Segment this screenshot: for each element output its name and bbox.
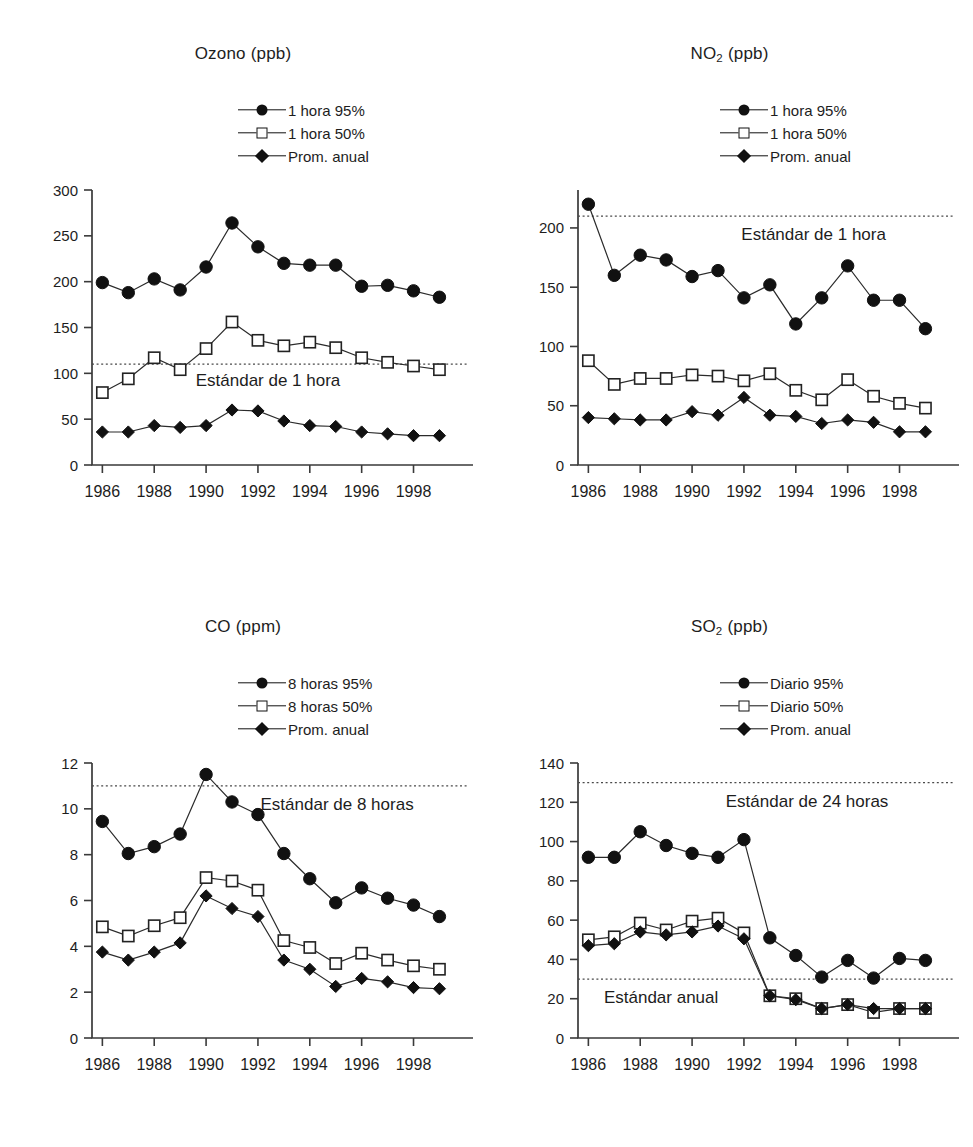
- x-tick-label: 1996: [830, 1056, 866, 1073]
- y-tick-label: 40: [547, 951, 564, 968]
- legend-square-icon: [718, 124, 770, 142]
- data-point-marker: [790, 318, 802, 330]
- legend-circle-icon: [236, 101, 288, 119]
- x-tick-label: 1988: [136, 1056, 172, 1073]
- y-tick-label: 10: [61, 800, 78, 817]
- legend-item: 1 hora 50%: [718, 123, 851, 143]
- data-point-marker: [609, 379, 620, 390]
- legend-label: 1 hora 95%: [288, 102, 365, 119]
- data-point-marker: [712, 264, 724, 276]
- data-point-marker: [790, 385, 801, 396]
- data-point-marker: [356, 426, 368, 438]
- data-point-marker: [920, 403, 931, 414]
- x-tick-label: 1998: [396, 1056, 432, 1073]
- x-tick-label: 1990: [674, 1056, 710, 1073]
- data-point-marker: [408, 360, 419, 371]
- data-point-marker: [304, 873, 316, 885]
- data-point-marker: [712, 409, 724, 421]
- data-point-marker: [816, 417, 828, 429]
- chart-legend-no2: 1 hora 95% 1 hora 50% Prom. anual: [718, 100, 851, 166]
- data-point-marker: [764, 932, 776, 944]
- data-point-marker: [686, 406, 698, 418]
- data-point-marker: [894, 398, 905, 409]
- data-point-marker: [200, 343, 211, 354]
- legend-diamond-icon: [236, 720, 288, 738]
- data-point-marker: [330, 420, 342, 432]
- y-tick-label: 200: [539, 219, 564, 236]
- data-point-marker: [434, 364, 445, 375]
- data-point-marker: [226, 796, 238, 808]
- legend-diamond-icon: [718, 720, 770, 738]
- data-point-marker: [608, 413, 620, 425]
- data-point-marker: [608, 851, 620, 863]
- data-point-marker: [764, 368, 775, 379]
- standard-annotation-label: Estándar de 1 hora: [196, 371, 341, 390]
- data-point-marker: [408, 960, 419, 971]
- data-point-marker: [174, 421, 186, 433]
- data-point-marker: [433, 910, 445, 922]
- data-point-marker: [226, 404, 238, 416]
- data-point-marker: [433, 430, 445, 442]
- data-point-marker: [867, 972, 879, 984]
- data-point-marker: [200, 261, 212, 273]
- data-point-marker: [97, 387, 108, 398]
- legend-item: Diario 50%: [718, 696, 851, 716]
- data-point-marker: [893, 426, 905, 438]
- x-tick-label: 1988: [136, 483, 172, 500]
- y-tick-label: 140: [539, 755, 564, 772]
- legend-label: Diario 95%: [770, 675, 843, 692]
- data-point-marker: [200, 872, 211, 883]
- legend-item: Prom. anual: [718, 719, 851, 739]
- legend-label: 8 horas 95%: [288, 675, 372, 692]
- chart-title-unit: (ppb): [251, 44, 292, 63]
- x-tick-label: 1994: [292, 1056, 328, 1073]
- x-tick-label: 1992: [726, 1056, 762, 1073]
- data-point-marker: [148, 946, 160, 958]
- standard-annotation-label: Estándar de 1 hora: [741, 225, 886, 244]
- y-tick-label: 8: [70, 846, 78, 863]
- y-tick-label: 0: [70, 457, 78, 474]
- legend-label: 8 horas 50%: [288, 698, 372, 715]
- data-point-marker: [582, 198, 594, 210]
- data-point-marker: [175, 364, 186, 375]
- x-tick-label: 1988: [622, 483, 658, 500]
- data-point-marker: [712, 851, 724, 863]
- legend-label: Prom. anual: [288, 148, 369, 165]
- data-point-marker: [278, 340, 289, 351]
- legend-diamond-icon: [236, 147, 288, 165]
- x-tick-label: 1998: [396, 483, 432, 500]
- data-point-marker: [634, 826, 646, 838]
- data-point-marker: [278, 954, 290, 966]
- data-point-marker: [304, 419, 316, 431]
- data-point-marker: [842, 374, 853, 385]
- chart-title-main: Ozono: [195, 44, 246, 63]
- data-point-marker: [893, 952, 905, 964]
- data-point-marker: [381, 428, 393, 440]
- x-tick-label: 1996: [344, 483, 380, 500]
- data-point-marker: [738, 391, 750, 403]
- y-tick-label: 120: [539, 794, 564, 811]
- legend-item: Prom. anual: [236, 146, 369, 166]
- chart-panel-ozono: Ozono (ppb) 1 hora 95% 1 hora 50% Prom. …: [0, 0, 486, 573]
- legend-square-icon: [236, 697, 288, 715]
- y-tick-label: 100: [539, 338, 564, 355]
- charts-grid: Ozono (ppb) 1 hora 95% 1 hora 50% Prom. …: [0, 0, 973, 1147]
- data-point-marker: [893, 294, 905, 306]
- data-point-marker: [841, 260, 853, 272]
- data-point-marker: [148, 419, 160, 431]
- data-point-marker: [304, 259, 316, 271]
- plot-area-so2: 0204060801001201401986198819901992199419…: [486, 743, 973, 1123]
- data-point-marker: [123, 373, 134, 384]
- data-point-marker: [686, 926, 698, 938]
- x-tick-label: 1990: [674, 483, 710, 500]
- legend-label: Diario 50%: [770, 698, 843, 715]
- legend-square-icon: [236, 124, 288, 142]
- data-point-marker: [200, 419, 212, 431]
- data-point-marker: [355, 882, 367, 894]
- data-point-marker: [381, 279, 393, 291]
- y-tick-label: 100: [53, 365, 78, 382]
- data-point-marker: [174, 284, 186, 296]
- data-point-marker: [433, 983, 445, 995]
- data-point-marker: [330, 958, 341, 969]
- data-point-marker: [634, 414, 646, 426]
